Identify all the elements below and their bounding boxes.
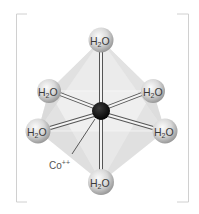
- octahedral-complex-diagram: H2O H2O H2O H2O H2O H2O Co++: [0, 0, 199, 214]
- ligand-top: H2O: [89, 28, 114, 53]
- left-bracket: [17, 14, 28, 202]
- cobalt-ion: [92, 102, 110, 120]
- ligand-lower-left: H2O: [26, 119, 51, 144]
- cobalt-ion-label: Co++: [49, 159, 70, 171]
- ligand-bottom: H2O: [88, 169, 114, 195]
- ligand-lower-right: H2O: [153, 119, 178, 144]
- ligand-upper-right: H2O: [141, 79, 165, 103]
- ligand-upper-left: H2O: [37, 79, 61, 103]
- right-bracket: [177, 14, 189, 202]
